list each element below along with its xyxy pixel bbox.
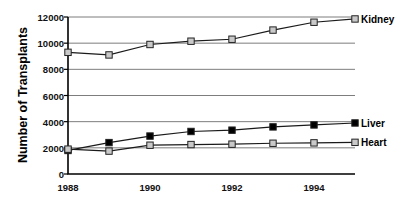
x-tick-label: 1990	[139, 182, 160, 193]
series-label-heart: Heart	[361, 137, 387, 148]
x-tick-label: 1992	[221, 182, 242, 193]
series-label-kidney: Kidney	[361, 13, 394, 24]
x-tick-label: 1988	[57, 182, 78, 193]
x-axis-tick-labels: 1988199019921994	[0, 0, 399, 203]
transplants-line-chart: Number of Transplants 020004000600080001…	[0, 0, 399, 203]
x-tick-label: 1994	[303, 182, 324, 193]
series-label-liver: Liver	[361, 117, 385, 128]
